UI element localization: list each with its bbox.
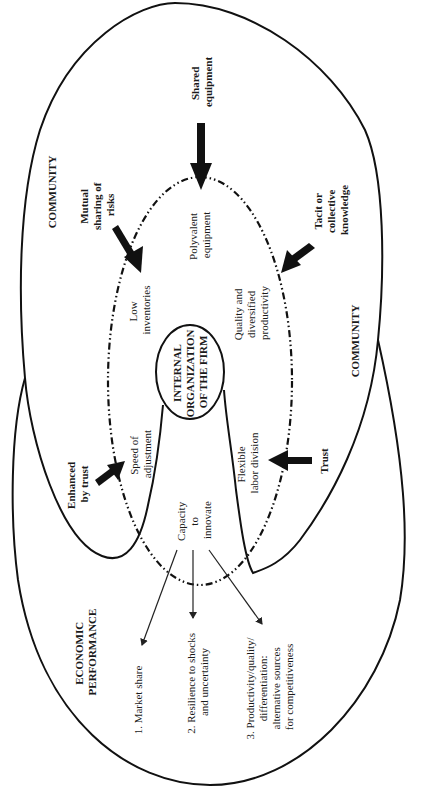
- label-quality-diversified-productivity: Quality and diversified productivity: [232, 286, 270, 341]
- trust-arrow: [268, 450, 312, 471]
- label-shared-equipment: Shared equipment: [189, 57, 214, 107]
- tacit-knowledge-arrow: [281, 243, 315, 273]
- label-enhanced-by-trust: Enhanced by trust: [65, 459, 90, 509]
- label-productivity-quality: 3. Productivity/quality/ differentiation…: [244, 635, 295, 740]
- firm-community-performance-diagram: Shared equipment Mutual sharing of risks…: [0, 0, 421, 804]
- shared-equipment-arrow: [190, 123, 212, 190]
- label-flexible-labor-division: Flexible labor division: [235, 432, 260, 493]
- label-tacit-or-collective-knowledge: Tacit or collective knowledge: [312, 185, 350, 235]
- label-speed-of-adjustment: Speed of adjustment: [128, 430, 153, 478]
- label-low-inventories: Low inventories: [127, 286, 152, 335]
- label-trust: Trust: [318, 448, 330, 474]
- label-internal-organization: INTERNAL ORGANIZATION OF THE FIRM: [171, 327, 209, 418]
- label-mutual-sharing-of-risks: Mutual sharing of risks: [78, 180, 116, 230]
- label-community-right: COMMUNITY: [349, 305, 361, 378]
- label-market-share: 1. Market share: [132, 666, 144, 735]
- label-capacity-to-innovate: Capacity to innovate: [175, 499, 213, 541]
- arrow-to-productivity: [209, 550, 262, 624]
- mutual-sharing-arrow: [112, 225, 143, 273]
- label-community-left: COMMUNITY: [46, 156, 58, 229]
- label-polyvalent-equipment: Polyvalent equipment: [187, 210, 212, 260]
- label-economic-performance: ECONOMIC PERFORMANCE: [73, 609, 98, 696]
- label-resilience: 2. Resilience to shocks and uncertainty: [185, 630, 210, 734]
- enhanced-by-trust-arrow: [95, 461, 125, 486]
